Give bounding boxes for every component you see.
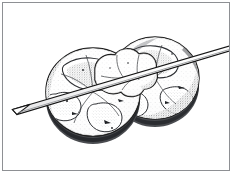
figure-frame: Cross-section illustration needle probe … bbox=[0, 0, 233, 174]
specimen-illustration bbox=[0, 0, 233, 174]
